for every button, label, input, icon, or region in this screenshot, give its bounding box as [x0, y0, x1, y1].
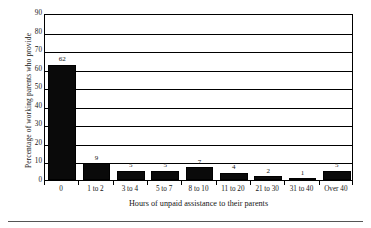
bar — [289, 178, 316, 180]
bar — [254, 176, 281, 180]
x-axis-tick-mark — [113, 181, 114, 185]
y-axis-tick-label: 20 — [22, 140, 42, 147]
x-axis-tick-mark — [284, 181, 285, 185]
x-axis-tick-label: 5 to 7 — [156, 186, 172, 193]
bar-value-label: 5 — [114, 162, 148, 169]
bar — [186, 167, 213, 180]
x-axis-tick-label: 11 to 20 — [221, 186, 244, 193]
x-axis-tick-label: Over 40 — [324, 186, 347, 193]
bar-value-label: 1 — [285, 170, 319, 177]
x-axis-tick-mark — [147, 181, 148, 185]
y-axis-tick-label: 0 — [22, 177, 42, 184]
y-axis-tick-label: 60 — [22, 66, 42, 73]
bar-slot: 5 — [148, 15, 182, 180]
y-axis-tick-label: 70 — [22, 48, 42, 55]
bar-chart-figure: Percentage of working parents who provid… — [0, 0, 371, 228]
plot-area: 6295574215 — [44, 14, 353, 181]
bar-value-label: 4 — [217, 164, 251, 171]
bar-value-label: 5 — [148, 162, 182, 169]
bar — [48, 65, 75, 180]
y-axis-tick-label: 10 — [22, 159, 42, 166]
bar — [117, 171, 144, 180]
x-axis-tick-labels: 01 to 23 to 45 to 78 to 1011 to 2021 to … — [44, 186, 353, 198]
bar-slot: 9 — [79, 15, 113, 180]
bar-slot: 4 — [217, 15, 251, 180]
x-axis-tick-mark — [250, 181, 251, 185]
y-axis-tick-label: 40 — [22, 103, 42, 110]
x-axis-tick-mark — [216, 181, 217, 185]
x-axis-tick-mark — [181, 181, 182, 185]
x-axis-tick-label: 3 to 4 — [122, 186, 138, 193]
bar-slot: 2 — [251, 15, 285, 180]
bar — [220, 173, 247, 180]
bar-slot: 7 — [182, 15, 216, 180]
y-axis-tick-label: 30 — [22, 122, 42, 129]
x-axis-tick-mark — [44, 181, 45, 185]
x-axis-tick-mark — [352, 181, 353, 185]
x-axis-tick-label: 8 to 10 — [189, 186, 209, 193]
bar — [83, 163, 110, 180]
x-axis-tick-label: 0 — [59, 186, 63, 193]
x-axis-tick-label: 1 to 2 — [87, 186, 103, 193]
x-axis-tick-mark — [319, 181, 320, 185]
bar-value-label: 9 — [79, 155, 113, 162]
y-axis-tick-label: 50 — [22, 85, 42, 92]
bar-slot: 1 — [285, 15, 319, 180]
y-axis-tick-label: 90 — [22, 10, 42, 17]
bar-value-label: 7 — [182, 159, 216, 166]
bar-value-label: 5 — [320, 162, 354, 169]
x-axis-tick-label: 31 to 40 — [290, 186, 314, 193]
bar-value-label: 2 — [251, 168, 285, 175]
y-axis-tick-label: 80 — [22, 29, 42, 36]
bar-series: 6295574215 — [45, 15, 352, 180]
x-axis-tick-label: 21 to 30 — [255, 186, 279, 193]
x-axis-title: Hours of unpaid assistance to their pare… — [44, 199, 353, 208]
y-axis-tick-labels: 0102030405060708090 — [22, 14, 42, 181]
bar-value-label: 62 — [45, 56, 79, 63]
bar-slot: 62 — [45, 15, 79, 180]
bar — [323, 171, 350, 180]
footer-rule — [8, 221, 363, 222]
bar-slot: 5 — [114, 15, 148, 180]
x-axis-tick-mark — [78, 181, 79, 185]
bar — [151, 171, 178, 180]
bar-slot: 5 — [320, 15, 354, 180]
